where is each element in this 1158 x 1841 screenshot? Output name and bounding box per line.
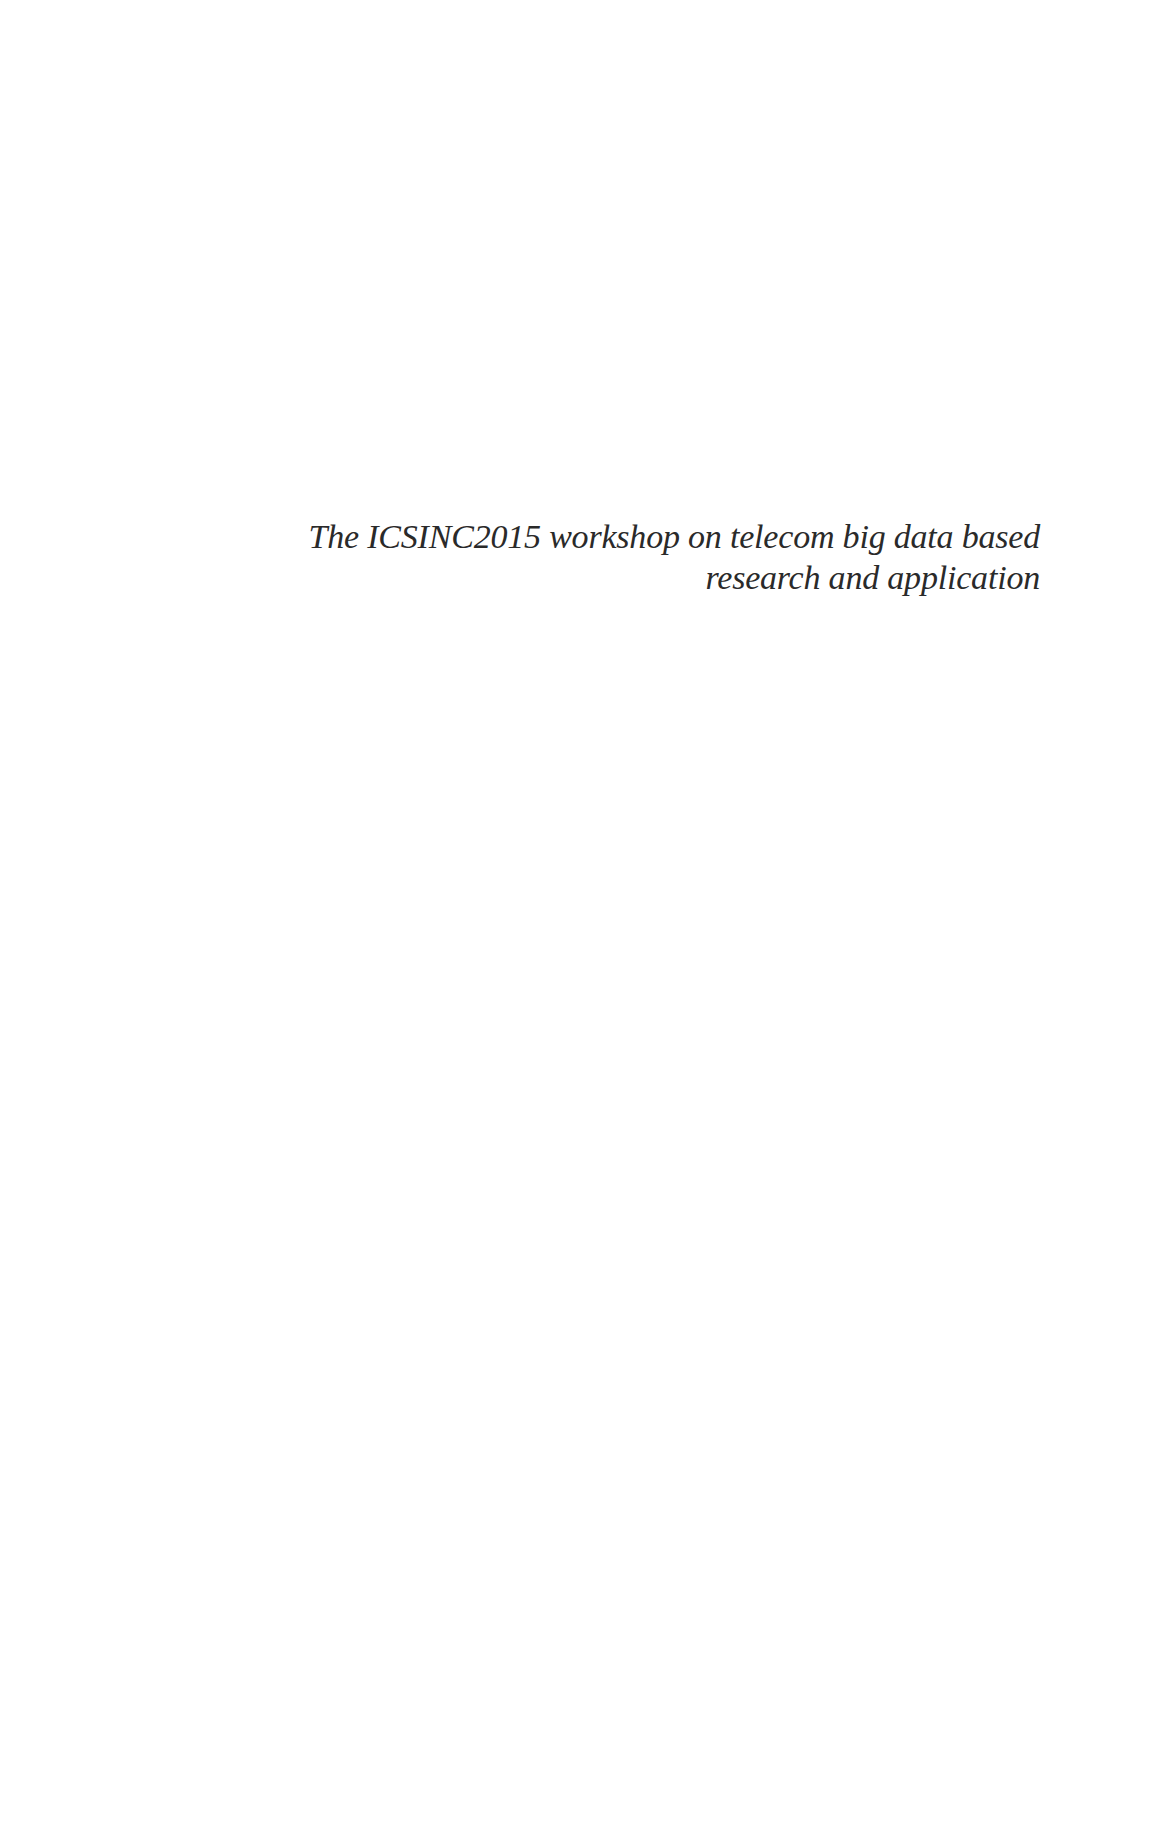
title-line-2: research and application <box>240 557 1040 598</box>
workshop-title: The ICSINC2015 workshop on telecom big d… <box>240 516 1040 598</box>
book-page: The ICSINC2015 workshop on telecom big d… <box>0 0 1158 1841</box>
title-line-1: The ICSINC2015 workshop on telecom big d… <box>240 516 1040 557</box>
